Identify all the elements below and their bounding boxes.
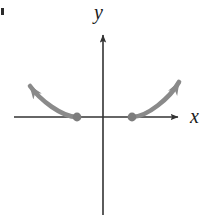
curve-right-branch	[132, 82, 179, 117]
endpoint-dot-right	[128, 113, 137, 122]
curve-left-branch	[30, 86, 77, 117]
y-axis-label: y	[94, 2, 103, 22]
x-axis-label: x	[190, 106, 199, 126]
graph-figure: y x	[0, 0, 212, 216]
endpoint-dot-left	[73, 113, 82, 122]
coordinate-plane-svg	[0, 0, 212, 216]
